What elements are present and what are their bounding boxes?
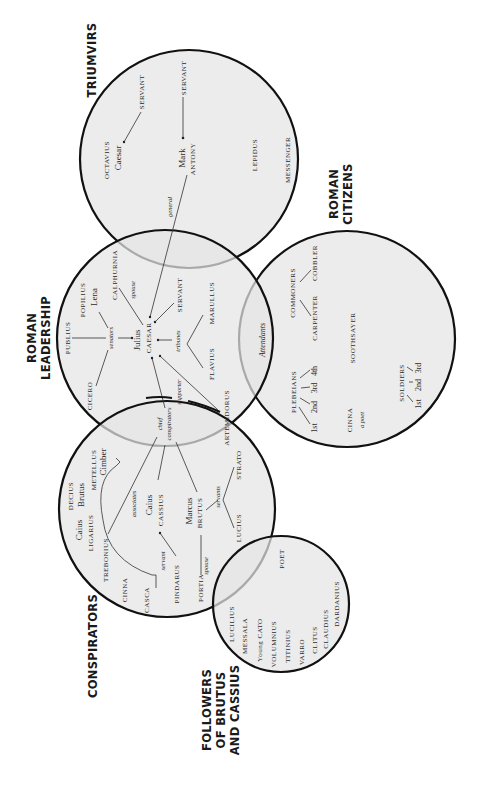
svg-text:FOLLOWERS: FOLLOWERS bbox=[200, 669, 214, 751]
char-julius: Julius bbox=[132, 329, 142, 351]
title-conspirators: CONSPIRATORS bbox=[86, 594, 100, 698]
pleb-1st: 1st bbox=[310, 423, 319, 433]
char-cinna: CINNA bbox=[121, 578, 129, 603]
svg-text:LEADERSHIP: LEADERSHIP bbox=[39, 296, 53, 380]
svg-text:ROMAN: ROMAN bbox=[25, 313, 39, 363]
char-portia: PORTIA bbox=[197, 574, 205, 602]
char-titinius: TITINIUS bbox=[284, 629, 292, 663]
char-soldiers: SOLDIERS bbox=[398, 364, 406, 401]
char-popilius: POPILIUS bbox=[79, 283, 87, 318]
char-strato: STRATO bbox=[235, 450, 243, 479]
char-varro: VARRO bbox=[298, 639, 306, 665]
char-messenger: MESSENGER bbox=[284, 137, 292, 183]
rel-supporter: supporter bbox=[175, 379, 182, 405]
char-servant-octavius: SERVANT bbox=[138, 75, 146, 110]
rel-spouse-calphurnia: spouse bbox=[129, 281, 136, 299]
char-caesar: CAESAR bbox=[145, 323, 153, 354]
char-popilius-given: Lena bbox=[89, 288, 99, 306]
rel-associates: associates bbox=[130, 490, 137, 517]
sold-3rd: 3rd bbox=[414, 363, 423, 374]
rel-servant-pindarus: servant bbox=[159, 551, 166, 570]
char-clitus: CLITUS bbox=[311, 626, 319, 654]
char-pindarus: PINDARUS bbox=[173, 564, 181, 603]
char-servant-antony: SERVANT bbox=[180, 61, 188, 96]
char-soothsayer: SOOTHSAYER bbox=[349, 313, 357, 364]
svg-text:TRIUMVIRS: TRIUMVIRS bbox=[85, 23, 99, 98]
svg-text:OF BRUTUS: OF BRUTUS bbox=[214, 672, 228, 749]
svg-text:CONSPIRATORS: CONSPIRATORS bbox=[86, 594, 100, 698]
char-brutus: BRUTUS bbox=[196, 498, 204, 529]
char-cobbler: COBBLER bbox=[311, 245, 319, 281]
char-casca: CASCA bbox=[143, 587, 151, 613]
pleb-2nd: 2nd bbox=[310, 401, 319, 413]
char-artemidorus: ARTEMIDORUS bbox=[223, 390, 231, 446]
char-publius: PUBLIUS bbox=[64, 322, 72, 355]
char-servant-caesar: SERVANT bbox=[176, 278, 184, 313]
supporter-arc bbox=[146, 397, 172, 398]
title-roman-citizens: ROMAN CITIZENS bbox=[327, 163, 355, 224]
char-cicero: CICERO bbox=[86, 382, 94, 411]
sold-1st: 1st bbox=[414, 399, 423, 409]
char-metellus-given: Cimber bbox=[98, 449, 108, 476]
sold-2nd: 2nd bbox=[414, 379, 423, 391]
char-commoners: COMMONERS bbox=[289, 268, 297, 318]
rel-tribunes: tribunes bbox=[174, 330, 181, 352]
char-poet: POET bbox=[278, 549, 286, 569]
char-flavius: FLAVIUS bbox=[208, 348, 216, 380]
svg-text:CITIZENS: CITIZENS bbox=[341, 163, 355, 224]
title-triumvirs: TRIUMVIRS bbox=[85, 23, 99, 98]
svg-text:AND CASSIUS: AND CASSIUS bbox=[228, 665, 242, 756]
character-relationship-diagram: TRIUMVIRS ROMAN LEADERSHIP ROMAN CITIZEN… bbox=[0, 0, 482, 789]
title-followers: FOLLOWERS OF BRUTUS AND CASSIUS bbox=[200, 665, 242, 756]
char-trebonius: TREBONIUS bbox=[102, 538, 110, 582]
char-claudius: CLAUDIUS bbox=[322, 609, 330, 648]
pleb-4th: 4th bbox=[310, 366, 319, 376]
rel-servants: servants bbox=[214, 486, 221, 508]
char-lucilius: LUCILIUS bbox=[228, 606, 236, 642]
char-mark: Mark bbox=[177, 148, 187, 168]
char-caius-cassius-given: Caius bbox=[144, 494, 154, 515]
svg-text:ROMAN: ROMAN bbox=[327, 169, 341, 219]
char-antony: ANTONY bbox=[189, 143, 197, 175]
char-marullus: MARULLUS bbox=[208, 282, 216, 325]
rel-attendants: Attendants bbox=[258, 323, 267, 358]
char-decius-given: Brutus bbox=[76, 483, 86, 508]
char-messala: MESSALA bbox=[241, 618, 249, 654]
char-dardanius: DARDANIUS bbox=[333, 581, 341, 627]
char-octavius-given: Caesar bbox=[113, 146, 123, 171]
char-marcus: Marcus bbox=[184, 497, 194, 524]
char-carpenter: CARPENTER bbox=[311, 295, 319, 340]
rel-spouse-portia: spouse bbox=[202, 557, 209, 575]
char-metellus: METELLUS bbox=[90, 450, 98, 491]
char-calphurnia: CALPHURNIA bbox=[111, 250, 119, 300]
char-cassius: CASSIUS bbox=[157, 494, 165, 526]
rel-general: general bbox=[166, 197, 173, 217]
char-cinna-poet: CINNA bbox=[346, 408, 354, 433]
char-lucius: LUCIUS bbox=[235, 514, 243, 542]
char-ligarius: LIGARIUS bbox=[87, 515, 95, 552]
rel-a-poet: a poet bbox=[358, 412, 365, 428]
char-volumnius: VOLUMNIUS bbox=[270, 621, 278, 668]
char-caius-ligarius-given: Caius bbox=[74, 519, 84, 540]
char-octavius: OCTAVIUS bbox=[103, 141, 111, 179]
char-decius: DECIUS bbox=[67, 482, 75, 510]
char-plebeians: PLEBEIANS bbox=[290, 371, 298, 413]
title-roman-leadership: ROMAN LEADERSHIP bbox=[25, 296, 53, 380]
pleb-3rd: 3rd bbox=[310, 383, 319, 394]
char-lepidus: LEPIDUS bbox=[251, 139, 259, 171]
char-young-cato: Young CATO bbox=[256, 618, 264, 661]
rel-senators: senators bbox=[107, 327, 114, 350]
rel-chief: chief bbox=[156, 416, 163, 430]
rel-conspirators: conspirators bbox=[165, 407, 172, 440]
